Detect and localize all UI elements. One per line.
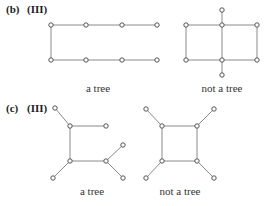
graph-vertex: [144, 107, 148, 111]
graph-vertex: [49, 23, 53, 27]
graph-vertex: [184, 58, 188, 62]
roman-label: (III): [27, 3, 48, 16]
graph-vertex: [104, 159, 108, 163]
graph-vertex: [195, 159, 199, 163]
graph-edge: [106, 145, 123, 161]
graph-vertex: [212, 107, 216, 111]
caption-tree: a tree: [80, 185, 104, 197]
graph-edge: [106, 161, 123, 178]
graph-not-tree: [144, 107, 216, 180]
graph-not-tree: [184, 8, 259, 77]
graph-vertex: [160, 159, 164, 163]
graph-vertex: [220, 23, 224, 27]
graph-vertex: [120, 58, 124, 62]
caption-tree: a tree: [86, 82, 110, 94]
graph-vertex: [49, 58, 53, 62]
graph-vertex: [220, 8, 224, 12]
graph-tree: [49, 23, 159, 62]
graph-edge: [197, 161, 214, 178]
part-label: (c): [6, 102, 19, 115]
graph-vertex: [68, 159, 72, 163]
graph-vertex: [195, 124, 199, 128]
graph-vertex: [121, 176, 125, 180]
graph-vertex: [53, 106, 57, 110]
graph-vertex: [184, 23, 188, 27]
graph-tree: [51, 106, 125, 180]
caption-not-tree: not a tree: [202, 82, 243, 94]
graph-vertex: [120, 23, 124, 27]
graph-edge: [146, 109, 162, 126]
graph-vertex: [121, 143, 125, 147]
part-label: (b): [6, 3, 20, 16]
caption-not-tree: not a tree: [160, 185, 201, 197]
graph-vertex: [220, 58, 224, 62]
graph-vertex: [255, 58, 259, 62]
graph-edge: [197, 109, 214, 126]
part-b: (b) (III) a tree not a tree: [6, 3, 259, 94]
graph-vertex: [68, 124, 72, 128]
graph-vertex: [84, 58, 88, 62]
graph-vertex: [84, 23, 88, 27]
graph-vertex: [155, 23, 159, 27]
graph-vertex: [155, 58, 159, 62]
graph-edge: [53, 161, 70, 178]
diagram-canvas: (b) (III) a tree not a tree (c) (III) a …: [0, 0, 268, 206]
part-c: (c) (III) a tree not a tree: [6, 102, 216, 197]
graph-vertex: [144, 176, 148, 180]
graph-vertex: [255, 23, 259, 27]
graph-vertex: [160, 124, 164, 128]
graph-vertex: [220, 73, 224, 77]
graph-vertex: [104, 124, 108, 128]
graph-edge: [146, 161, 162, 178]
roman-label: (III): [27, 102, 48, 115]
graph-vertex: [51, 176, 55, 180]
graph-edge: [55, 108, 70, 126]
graph-vertex: [212, 176, 216, 180]
